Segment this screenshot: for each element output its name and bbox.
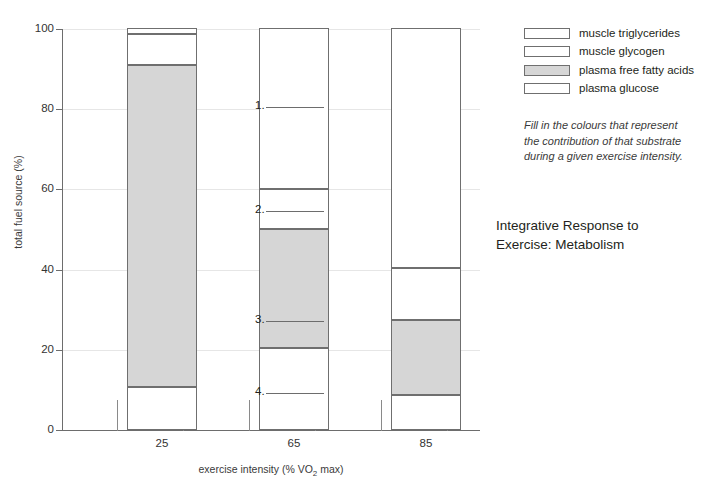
answer-blank-1-rule [266,107,324,108]
y-tick-mark-100 [56,29,62,30]
x-tick-mark-3 [249,400,250,431]
chart-legend: muscle triglycerides muscle glycogen pla… [524,24,694,98]
legend-item-plasma-glucose[interactable]: plasma glucose [524,80,694,99]
bar-85-segment-plasma-glucose [391,395,461,430]
y-tick-mark-40 [56,270,62,271]
bar-25-segment-plasma-glucose [127,387,197,430]
y-tick-label-60: 60 [26,183,54,195]
y-tick-label-40: 40 [26,264,54,276]
y-tick-label-100: 100 [26,23,54,35]
figure-title-line-2: Exercise: Metabolism [496,235,706,254]
x-axis-title: exercise intensity (% VO2 max) [62,463,480,478]
x-axis-title-pre: exercise intensity (% VO [198,463,312,475]
legend-label-muscle-triglycerides: muscle triglycerides [579,28,680,40]
y-tick-label-0: 0 [26,424,54,436]
legend-item-muscle-triglycerides[interactable]: muscle triglycerides [524,24,694,43]
x-axis-title-post: max) [317,463,343,475]
figure-title-line-1: Integrative Response to [496,216,706,235]
y-tick-mark-80 [56,109,62,110]
y-axis-title: total fuel source (%) [12,112,24,292]
legend-label-plasma-glucose: plasma glucose [579,83,659,95]
legend-swatch-plasma-glucose [524,83,570,94]
answer-blank-2-rule [266,211,324,212]
legend-swatch-muscle-triglycerides [524,28,570,39]
y-tick-mark-0 [56,430,62,431]
legend-swatch-muscle-glycogen [524,46,570,57]
bar-25-segment-muscle-glycogen [127,34,197,65]
legend-item-muscle-glycogen[interactable]: muscle glycogen [524,43,694,62]
bar-85-segment-muscle-triglycerides [391,28,461,268]
legend-swatch-plasma-free-fatty-acids [524,65,570,76]
answer-blank-3-number: 3. [255,313,265,325]
figure-title: Integrative Response to Exercise: Metabo… [496,216,706,254]
instruction-line-3: during a given exercise intensity. [524,149,704,165]
x-tick-label-25: 25 [132,437,192,449]
legend-label-muscle-glycogen: muscle glycogen [579,46,665,58]
instruction-line-1: Fill in the colours that represent [524,118,704,134]
y-tick-mark-20 [56,350,62,351]
answer-blank-2[interactable]: 2. [255,203,324,215]
bar-85[interactable] [391,29,461,431]
y-tick-label-20: 20 [26,344,54,356]
answer-blank-4-number: 4. [255,385,265,397]
legend-item-plasma-free-fatty-acids[interactable]: plasma free fatty acids [524,61,694,80]
y-tick-label-80: 80 [26,103,54,115]
answer-blank-4[interactable]: 4. [255,385,324,397]
legend-label-plasma-free-fatty-acids: plasma free fatty acids [579,65,694,77]
instruction-text: Fill in the colours that represent the c… [524,118,704,165]
x-tick-label-65: 65 [264,437,324,449]
y-tick-mark-60 [56,189,62,190]
x-tick-label-85: 85 [396,437,456,449]
answer-blank-2-number: 2. [255,203,265,215]
answer-blank-4-rule [266,393,324,394]
x-tick-mark-5 [381,400,382,431]
bar-25-segment-plasma-free-fatty-acids [127,65,197,387]
instruction-line-2: the contribution of that substrate [524,134,704,150]
bar-85-segment-plasma-free-fatty-acids [391,320,461,395]
bar-65-segment-3 [259,229,329,348]
bar-25[interactable] [127,29,197,431]
answer-blank-1-number: 1. [255,99,265,111]
answer-blank-1[interactable]: 1. [255,99,324,111]
bar-85-segment-muscle-glycogen [391,268,461,320]
y-axis-line [62,29,63,431]
chart-plot-area: 100 80 60 40 20 0 total fuel source (%) [0,0,480,490]
x-tick-mark-1 [117,400,118,431]
answer-blank-3-rule [266,321,324,322]
bar-65[interactable] [259,29,329,431]
answer-blank-3[interactable]: 3. [255,313,324,325]
